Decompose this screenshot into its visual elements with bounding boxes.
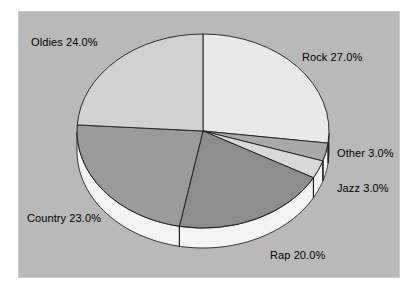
pie-chart-figure: Oldies 24.0% Rock 27.0% Other 3.0% Jazz … <box>0 0 417 293</box>
slice-label-other: Other 3.0% <box>337 147 394 159</box>
slice-label-country: Country 23.0% <box>27 212 101 224</box>
slice-label-oldies: Oldies 24.0% <box>31 36 98 48</box>
slice-label-rock: Rock 27.0% <box>302 51 362 63</box>
slice-label-rap: Rap 20.0% <box>270 249 325 261</box>
slice-label-jazz: Jazz 3.0% <box>337 182 389 194</box>
